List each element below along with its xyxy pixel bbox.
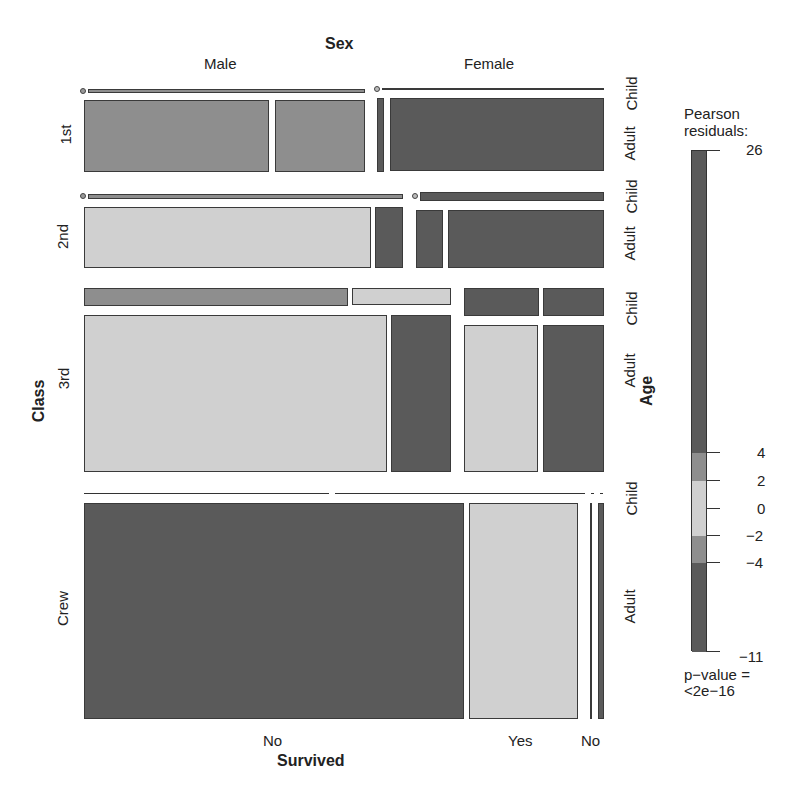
tile-3rd-male-adult-no <box>84 315 387 472</box>
legend-tick-0 <box>706 508 720 509</box>
legend-tick-neg4 <box>706 562 720 563</box>
age-label-2nd-adult: Adult <box>621 226 638 260</box>
legend-label-0: 0 <box>757 500 765 517</box>
p-value-label: p−value = <box>684 666 750 683</box>
legend-tick-2 <box>706 480 720 481</box>
class-label-1st: 1st <box>57 124 74 144</box>
age-label-1st-adult: Adult <box>621 126 638 160</box>
tile-2nd-female-adult-yes <box>448 210 604 268</box>
class-label-crew: Crew <box>54 591 71 626</box>
legend-band-light <box>692 481 706 536</box>
class-label-3rd: 3rd <box>55 368 72 390</box>
empty-cell-marker <box>80 88 86 94</box>
tile-2nd-female-child-yes <box>420 192 604 201</box>
legend-tick-neg2 <box>706 535 720 536</box>
tile-1st-female-adult-no <box>377 98 384 172</box>
p-value: <2e−16 <box>684 682 735 699</box>
crew-male-child-no-line <box>84 493 329 494</box>
sex-label-female: Female <box>464 55 514 72</box>
tile-3rd-female-child-no <box>464 288 539 316</box>
left-axis-title: Class <box>30 380 48 423</box>
crew-female-child-no-line <box>591 493 594 494</box>
tile-2nd-female-adult-no <box>416 210 443 268</box>
legend-tick-min <box>706 651 720 652</box>
legend-band-medium-low <box>692 536 706 563</box>
legend-band-dark-low <box>692 563 706 652</box>
legend-band-medium-high <box>692 453 706 481</box>
tile-2nd-male-adult-yes <box>375 207 403 268</box>
tile-2nd-male-adult-no <box>84 207 371 268</box>
empty-cell-marker <box>80 193 86 199</box>
tile-1st-male-child-yes <box>88 89 365 93</box>
tile-3rd-female-child-yes <box>543 288 604 316</box>
age-label-1st-child: Child <box>623 76 640 110</box>
survived-label-no: No <box>263 732 282 749</box>
tile-3rd-female-adult-no <box>464 325 538 472</box>
legend-label-max: 26 <box>746 141 763 158</box>
age-label-crew-adult: Adult <box>621 589 638 623</box>
age-label-2nd-child: Child <box>623 179 640 213</box>
top-axis-title: Sex <box>325 35 353 53</box>
tile-3rd-female-adult-yes <box>543 325 604 472</box>
empty-cell-marker <box>374 86 380 92</box>
age-label-crew-child: Child <box>623 481 640 515</box>
tile-1st-female-child-yes <box>382 88 604 90</box>
tile-2nd-male-child-yes <box>88 194 403 199</box>
bottom-axis-title: Survived <box>277 752 345 770</box>
legend-label-neg2: −2 <box>746 527 763 544</box>
tile-3rd-male-child-yes <box>352 288 451 305</box>
age-label-3rd-child: Child <box>623 291 640 325</box>
legend-label-2: 2 <box>757 472 765 489</box>
tile-1st-male-adult-yes <box>275 100 365 172</box>
class-label-2nd: 2nd <box>54 224 71 249</box>
empty-cell-marker <box>412 193 418 199</box>
crew-male-child-yes-line <box>335 493 585 494</box>
tile-crew-male-adult-yes <box>469 503 578 719</box>
tile-3rd-male-child-no <box>84 288 348 306</box>
legend-tick-max <box>706 150 720 151</box>
tile-1st-female-adult-yes <box>390 98 604 171</box>
age-label-3rd-adult: Adult <box>621 353 638 387</box>
tile-crew-male-adult-no <box>84 503 464 719</box>
tile-1st-male-adult-no <box>84 100 269 172</box>
tile-3rd-male-adult-yes <box>391 315 451 472</box>
sex-label-male: Male <box>204 55 237 72</box>
legend-color-bar <box>691 150 707 651</box>
tile-crew-female-adult-no <box>590 503 592 719</box>
legend-tick-4 <box>706 452 720 453</box>
legend-label-neg4: −4 <box>746 554 763 571</box>
legend-title: Pearson residuals: <box>684 105 764 139</box>
tile-crew-female-adult-yes <box>598 503 604 719</box>
right-axis-title: Age <box>638 376 656 406</box>
survived-label-yes: Yes <box>508 732 532 749</box>
legend-label-min: −11 <box>739 648 763 665</box>
survived-label-no-female: No <box>581 732 600 749</box>
crew-female-child-yes-line <box>600 493 603 494</box>
legend-band-dark-high <box>692 151 706 453</box>
legend-label-4: 4 <box>757 444 765 461</box>
